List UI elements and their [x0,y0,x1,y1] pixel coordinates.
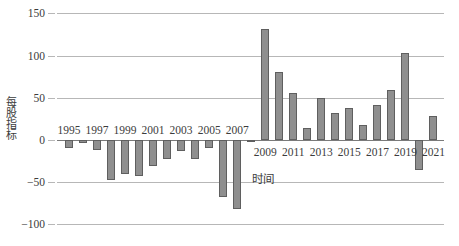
bar-2011 [289,93,297,140]
y-tick-dash [48,140,55,141]
x-tick-label-2001: 2001 [142,124,165,136]
y-tick-label: 50 [34,92,46,104]
bar-1995 [65,140,73,148]
bar-2013 [317,98,325,140]
bar-2016 [359,125,367,140]
bar-2014 [331,113,339,140]
bar-2012 [303,128,311,140]
y-tick-dash [48,224,55,225]
y-tick-dash [48,98,55,99]
bar-2017 [373,105,381,140]
x-tick-label-1995: 1995 [57,124,80,136]
bar-2018 [387,90,395,140]
bar-chart: 每股指标 150100500−50−100 199519971999200120… [0,0,459,246]
bar-2007 [233,140,241,209]
bar-2010 [275,72,283,140]
plot-area: 150100500−50−100 19951997199920012003200… [57,20,444,226]
bar-2009 [261,29,269,140]
bar-2019 [401,53,409,140]
x-tick-label-2007: 2007 [226,124,249,136]
bar-2005 [205,140,213,148]
bar-1996 [79,140,87,143]
x-tick-label-2015: 2015 [338,146,361,158]
bar-2004 [191,140,199,159]
bar-2006 [219,140,227,197]
x-tick-label-2011: 2011 [282,146,305,158]
y-axis-title: 每股指标 [2,96,18,140]
x-tick-label-2019: 2019 [394,146,417,158]
x-tick-label-2003: 2003 [170,124,193,136]
x-tick-label-2009: 2009 [254,146,277,158]
bar-1998 [107,140,115,180]
y-tick-label: −50 [27,176,45,188]
y-tick-dash [48,182,55,183]
x-tick-label-2021: 2021 [422,146,445,158]
y-tick-label: −100 [21,218,45,230]
x-tick-label-2005: 2005 [198,124,221,136]
bar-2001 [149,140,157,166]
x-tick-label-1997: 1997 [85,124,108,136]
x-axis-title: 时间 [252,170,274,186]
bar-2015 [345,108,353,140]
y-tick-label: 150 [28,7,45,19]
x-tick-label-2013: 2013 [310,146,333,158]
bar-2003 [177,140,185,151]
bar-2008 [247,140,255,142]
bar-2000 [135,140,143,176]
x-tick-label-2017: 2017 [366,146,389,158]
bar-series [57,20,444,226]
bar-1997 [93,140,101,150]
bar-2002 [163,140,171,159]
bar-1999 [121,140,129,174]
bar-2021 [429,116,437,140]
x-tick-label-1999: 1999 [114,124,137,136]
y-tick-label: 0 [39,134,45,146]
y-tick-dash [48,13,55,14]
y-tick-label: 100 [28,50,45,62]
gridline-150: 150 [57,13,444,14]
y-tick-dash [48,56,55,57]
